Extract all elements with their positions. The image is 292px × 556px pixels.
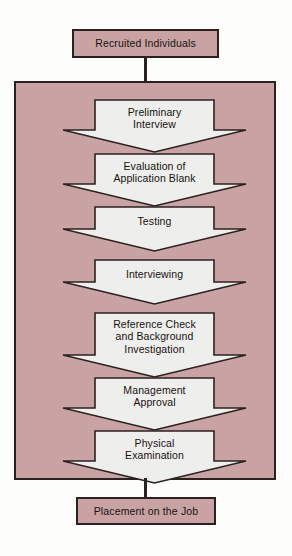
process-step-3: Testing bbox=[63, 207, 246, 251]
chevron-arrow-icon bbox=[63, 100, 246, 152]
chevron-arrow-icon bbox=[63, 431, 246, 483]
connector-line-bottom bbox=[144, 478, 147, 499]
selection-process-flowchart: Recruited Individuals PreliminaryIntervi… bbox=[0, 0, 292, 556]
start-box-recruited-individuals: Recruited Individuals bbox=[72, 29, 219, 58]
process-step-6: ManagementApproval bbox=[63, 378, 246, 430]
process-step-7: PhysicalExamination bbox=[63, 431, 246, 483]
process-step-list: PreliminaryInterviewEvaluation ofApplica… bbox=[16, 83, 274, 478]
process-step-5: Reference Checkand BackgroundInvestigati… bbox=[63, 313, 246, 377]
chevron-arrow-icon bbox=[63, 313, 246, 377]
end-box-placement-on-the-job: Placement on the Job bbox=[76, 497, 216, 525]
process-step-1: PreliminaryInterview bbox=[63, 100, 246, 152]
process-container: PreliminaryInterviewEvaluation ofApplica… bbox=[14, 81, 276, 480]
chevron-arrow-icon bbox=[63, 260, 246, 304]
chevron-arrow-icon bbox=[63, 207, 246, 251]
chevron-arrow-icon bbox=[63, 154, 246, 206]
process-step-4: Interviewing bbox=[63, 260, 246, 304]
connector-line-top bbox=[144, 57, 147, 83]
process-step-2: Evaluation ofApplication Blank bbox=[63, 154, 246, 206]
start-box-label: Recruited Individuals bbox=[95, 37, 196, 49]
end-box-label: Placement on the Job bbox=[94, 505, 199, 517]
chevron-arrow-icon bbox=[63, 378, 246, 430]
